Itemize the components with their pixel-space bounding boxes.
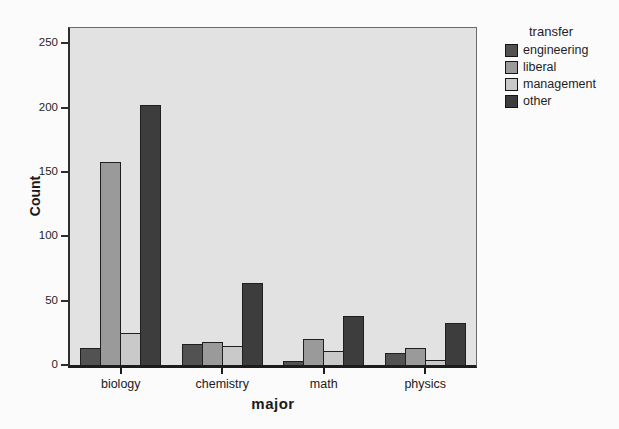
x-tick-mark-math xyxy=(323,368,325,374)
legend-item-management: management xyxy=(505,77,617,91)
x-tick-label-biology: biology xyxy=(71,377,171,391)
bar-physics-other xyxy=(445,323,466,365)
legend-label-engineering: engineering xyxy=(523,43,588,57)
bar-math-other xyxy=(343,316,364,365)
bar-math-management xyxy=(323,351,344,365)
legend-swatch-management xyxy=(505,78,518,91)
bar-biology-engineering xyxy=(80,348,101,365)
legend-item-engineering: engineering xyxy=(505,43,617,57)
bar-group-physics xyxy=(375,28,477,365)
bar-chemistry-engineering xyxy=(182,344,203,365)
y-tick-mark-50 xyxy=(61,300,68,302)
y-tick-mark-0 xyxy=(61,364,68,366)
y-tick-mark-100 xyxy=(61,235,68,237)
y-tick-label-0: 0 xyxy=(22,358,58,370)
legend-label-liberal: liberal xyxy=(523,60,556,74)
legend: transfer engineeringliberalmanagementoth… xyxy=(505,24,617,111)
legend-item-other: other xyxy=(505,94,617,108)
legend-swatch-liberal xyxy=(505,61,518,74)
legend-item-liberal: liberal xyxy=(505,60,617,74)
y-tick-mark-150 xyxy=(61,171,68,173)
x-tick-mark-physics xyxy=(424,368,426,374)
x-tick-mark-chemistry xyxy=(221,368,223,374)
x-tick-label-math: math xyxy=(274,377,374,391)
plot-area xyxy=(68,27,477,368)
legend-label-other: other xyxy=(523,94,552,108)
bar-biology-liberal xyxy=(100,162,121,365)
bar-group-chemistry xyxy=(172,28,274,365)
legend-label-management: management xyxy=(523,77,596,91)
legend-title: transfer xyxy=(529,24,617,39)
bar-chemistry-liberal xyxy=(202,342,223,365)
legend-swatch-other xyxy=(505,95,518,108)
bar-group-math xyxy=(273,28,375,365)
y-tick-label-100: 100 xyxy=(22,229,58,241)
bar-biology-management xyxy=(120,333,141,365)
bar-biology-other xyxy=(140,105,161,365)
bar-physics-engineering xyxy=(385,353,406,365)
bar-chemistry-other xyxy=(242,283,263,365)
x-tick-label-chemistry: chemistry xyxy=(172,377,272,391)
bar-group-biology xyxy=(70,28,172,365)
bar-math-liberal xyxy=(303,339,324,365)
y-tick-label-200: 200 xyxy=(22,101,58,113)
bar-physics-liberal xyxy=(405,348,426,365)
x-tick-mark-biology xyxy=(120,368,122,374)
y-tick-mark-250 xyxy=(61,42,68,44)
bar-physics-management xyxy=(425,360,446,365)
bar-chart-figure: Count 050100150200250 biologychemistryma… xyxy=(0,0,619,429)
bar-math-engineering xyxy=(283,361,304,365)
legend-items: engineeringliberalmanagementother xyxy=(505,43,617,108)
y-tick-label-250: 250 xyxy=(22,36,58,48)
x-axis-title: major xyxy=(173,395,373,412)
y-tick-label-150: 150 xyxy=(22,165,58,177)
y-tick-mark-200 xyxy=(61,107,68,109)
bar-chemistry-management xyxy=(222,346,243,365)
x-tick-label-physics: physics xyxy=(375,377,475,391)
y-tick-label-50: 50 xyxy=(22,294,58,306)
legend-swatch-engineering xyxy=(505,44,518,57)
